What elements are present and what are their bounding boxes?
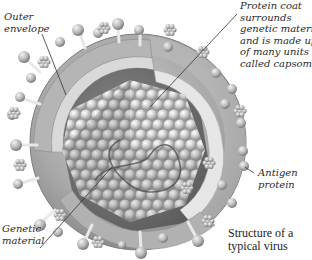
virus-diagram: Outer envelope Protein coat surrounds ge… xyxy=(0,0,312,260)
label-protein-coat: Protein coat surrounds genetic material … xyxy=(240,0,312,69)
diagram-caption: Structure of a typical virus xyxy=(228,227,293,253)
label-outer-envelope: Outer envelope xyxy=(4,11,49,34)
label-antigen-protein: Antigen protein xyxy=(258,167,298,190)
label-genetic-material: Genetic material xyxy=(2,223,45,246)
